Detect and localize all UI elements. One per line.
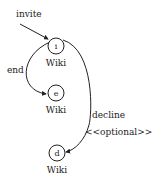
edge-decline-label: decline bbox=[92, 110, 125, 120]
initial-edge-arrow bbox=[20, 24, 48, 39]
edge-decline-stereotype: <<optional>> bbox=[85, 127, 152, 137]
node-i[interactable]: i Wiki bbox=[46, 38, 66, 68]
edge-i-to-e bbox=[26, 42, 50, 94]
initial-edge-label: invite bbox=[16, 9, 42, 19]
edge-end-label: end bbox=[7, 65, 24, 75]
node-e-label: e bbox=[54, 89, 59, 98]
node-d[interactable]: d Wiki bbox=[47, 145, 67, 175]
node-i-label: i bbox=[55, 42, 58, 51]
node-e-caption: Wiki bbox=[46, 105, 66, 115]
state-diagram: invite end decline <<optional>> i Wiki e… bbox=[0, 0, 153, 180]
node-d-label: d bbox=[54, 149, 59, 158]
node-e[interactable]: e Wiki bbox=[46, 85, 66, 115]
node-d-caption: Wiki bbox=[47, 165, 67, 175]
node-i-caption: Wiki bbox=[46, 58, 66, 68]
